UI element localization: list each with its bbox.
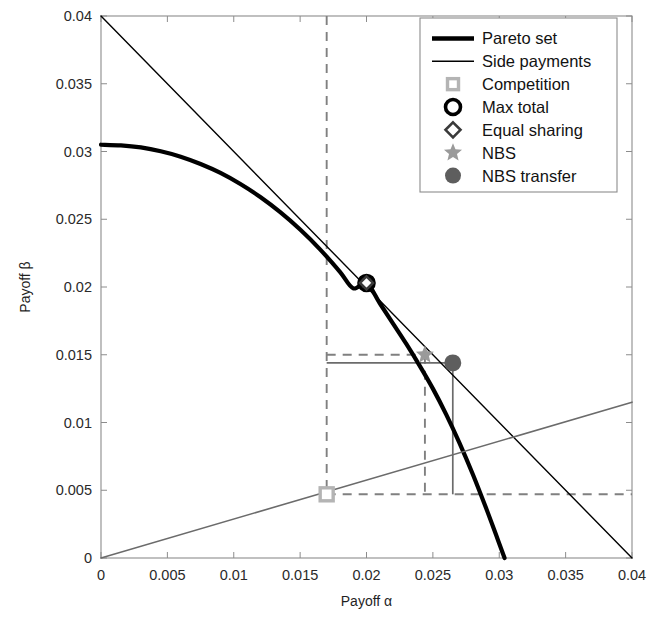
y-tick-label: 0.015 xyxy=(56,347,92,363)
y-tick-label: 0.03 xyxy=(64,144,92,160)
x-tick-labels: 00.0050.010.0150.020.0250.030.0350.04 xyxy=(97,567,646,583)
y-tick-label: 0.01 xyxy=(64,415,92,431)
x-axis-title: Payoff α xyxy=(341,593,392,609)
y-tick-label: 0 xyxy=(84,550,92,566)
legend-label: NBS xyxy=(482,144,516,162)
y-tick-label: 0.035 xyxy=(56,76,92,92)
legend-label: Side payments xyxy=(482,52,591,70)
pareto-payoff-figure: 00.0050.010.0150.020.0250.030.0350.04 00… xyxy=(0,0,660,628)
legend-label: Competition xyxy=(482,75,570,93)
x-tick-label: 0.025 xyxy=(415,567,451,583)
legend-label: Pareto set xyxy=(482,29,558,47)
legend-symbol-filled-circle xyxy=(445,168,461,184)
legend-label: Max total xyxy=(482,98,549,116)
x-tick-label: 0.035 xyxy=(547,567,583,583)
legend: Pareto setSide paymentsCompetitionMax to… xyxy=(420,18,617,192)
legend-symbol-open-square xyxy=(448,79,459,90)
x-tick-label: 0.01 xyxy=(220,567,248,583)
marker-competition xyxy=(320,488,333,501)
caption-fragment xyxy=(0,616,660,628)
x-tick-label: 0.03 xyxy=(485,567,513,583)
legend-label: Equal sharing xyxy=(482,121,583,139)
x-tick-label: 0.02 xyxy=(352,567,380,583)
x-tick-label: 0.04 xyxy=(618,567,646,583)
marker-nbs-transfer xyxy=(444,354,461,371)
y-tick-label: 0.02 xyxy=(64,279,92,295)
y-tick-label: 0.04 xyxy=(64,8,92,24)
y-tick-label: 0.025 xyxy=(56,211,92,227)
y-tick-label: 0.005 xyxy=(56,482,92,498)
x-tick-label: 0.005 xyxy=(149,567,185,583)
x-tick-label: 0 xyxy=(97,567,105,583)
legend-symbol-open-circle xyxy=(446,100,461,115)
y-axis-title: Payoff β xyxy=(17,261,33,312)
legend-label: NBS transfer xyxy=(482,167,577,185)
x-tick-label: 0.015 xyxy=(282,567,318,583)
chart-canvas: 00.0050.010.0150.020.0250.030.0350.04 00… xyxy=(0,0,660,628)
